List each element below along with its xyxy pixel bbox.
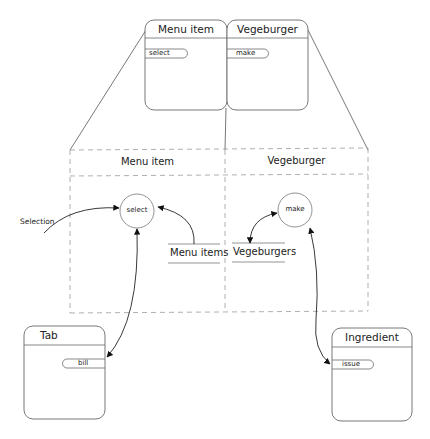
card-tab bbox=[24, 326, 105, 419]
card-vegeburger-title: Vegeburger bbox=[227, 23, 308, 35]
card-tab-title: Tab bbox=[40, 329, 58, 341]
card-ingredient-method: issue bbox=[342, 360, 360, 368]
process-select-label: select bbox=[120, 206, 154, 214]
card-vegeburger-method: make bbox=[236, 49, 255, 57]
store-menu-items-label: Menu items bbox=[170, 247, 228, 258]
flow-menu-items bbox=[158, 207, 194, 244]
flow-bill bbox=[107, 229, 137, 357]
card-ingredient-title: Ingredient bbox=[332, 331, 412, 343]
card-tab-method: bill bbox=[78, 359, 88, 367]
diagram-canvas bbox=[0, 0, 430, 439]
card-menu-item-title: Menu item bbox=[145, 23, 227, 35]
process-make-label: make bbox=[278, 205, 312, 213]
flow-issue bbox=[310, 228, 330, 364]
card-menu-item-method: select bbox=[149, 49, 170, 57]
region-vegeburger-title: Vegeburger bbox=[225, 155, 368, 166]
external-selection-label: Selection bbox=[20, 217, 55, 226]
perspective-line-right bbox=[308, 30, 368, 150]
region-menu-item-title: Menu item bbox=[70, 156, 225, 167]
flow-vegeburgers bbox=[250, 213, 277, 243]
perspective-line-left bbox=[70, 30, 146, 150]
flow-selection bbox=[44, 208, 119, 233]
expanded-view bbox=[70, 148, 368, 313]
store-vegeburgers-label: Vegeburgers bbox=[233, 246, 296, 257]
perspective-line-center bbox=[225, 108, 226, 150]
